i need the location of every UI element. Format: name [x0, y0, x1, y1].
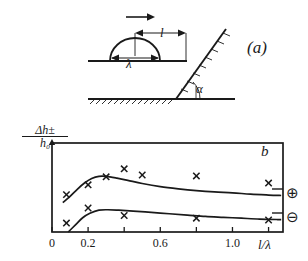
data-point-marker	[121, 212, 127, 218]
data-point-marker	[139, 172, 145, 178]
figure-container: (a) λ l α Δh± h₀ b l/λ ⊕ ⊖ 00.20.61.0	[0, 0, 308, 261]
lambda-label: λ	[126, 56, 132, 72]
data-point-marker	[265, 180, 271, 186]
x-tick-label: 0.6	[149, 236, 171, 251]
x-tick-label: 0.2	[77, 236, 99, 251]
data-point-marker	[193, 173, 199, 179]
legend-symbol-plus: ⊕	[286, 184, 299, 202]
panel-a-label: (a)	[247, 38, 267, 58]
data-markers-minus	[63, 205, 272, 227]
panel-b-label: b	[261, 143, 269, 160]
data-point-marker	[63, 220, 69, 226]
curve-plus	[63, 176, 281, 203]
panel-a-schematic	[0, 0, 308, 122]
curve-minus	[68, 210, 281, 232]
data-point-marker	[85, 205, 91, 211]
angle-alpha-label: α	[196, 81, 203, 97]
x-tick-label: 1.0	[221, 236, 243, 251]
data-point-marker	[121, 166, 127, 172]
data-point-marker	[63, 191, 69, 197]
data-point-marker	[85, 182, 91, 188]
distance-l-label: l	[160, 25, 164, 41]
x-axis-label: l/λ	[258, 237, 271, 253]
y-axis-denominator: h₀	[22, 137, 68, 149]
motion-arrow-icon	[126, 13, 155, 20]
legend-symbol-minus: ⊖	[286, 208, 299, 226]
y-axis-label: Δh± h₀	[22, 124, 68, 149]
x-tick-label: 0	[41, 236, 63, 251]
